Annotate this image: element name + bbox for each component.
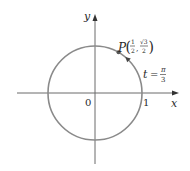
comma: , xyxy=(136,44,139,53)
angle-label: t = π 3 xyxy=(143,66,166,84)
origin-label: 0 xyxy=(85,97,91,108)
angle-denominator: 3 xyxy=(161,76,165,84)
x-denominator: 2 xyxy=(131,47,135,54)
x-axis-arrowhead xyxy=(172,91,179,96)
y-axis-label: y xyxy=(83,10,91,23)
y-axis-arrowhead xyxy=(93,14,98,21)
right-paren: ) xyxy=(149,39,154,55)
one-tick-label: 1 xyxy=(143,97,149,108)
unit-circle-figure: y x 0 1 P ( 1 2 , √3 2 ) t = π 3 xyxy=(0,0,190,171)
equals-sign: = xyxy=(150,69,158,80)
y-numerator: √3 xyxy=(140,38,148,45)
angle-numerator: π xyxy=(160,66,166,74)
angle-variable: t xyxy=(143,68,148,81)
x-numerator: 1 xyxy=(131,38,135,45)
point-p-label: P ( 1 2 , √3 2 ) xyxy=(117,38,154,55)
x-axis-label: x xyxy=(171,97,178,110)
diagram-canvas: y x 0 1 P ( 1 2 , √3 2 ) t = π 3 xyxy=(0,0,190,171)
y-denominator: 2 xyxy=(142,47,146,54)
